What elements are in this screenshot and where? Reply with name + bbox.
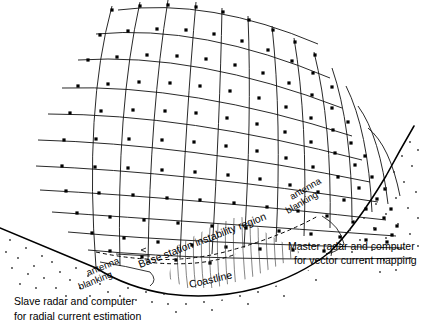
master-radar-label-line1: Master radar and computer xyxy=(288,240,415,252)
master-radar-label-line2: for vector current mapping xyxy=(294,254,417,266)
slave-radar-label-line1: Slave radar and computer xyxy=(14,295,135,307)
slave-radar-label-line2: for radial current estimation xyxy=(14,310,141,322)
figure-canvas: Slave radar and computer for radial curr… xyxy=(0,0,421,332)
radar-geometry-figure: Slave radar and computer for radial curr… xyxy=(0,0,421,332)
